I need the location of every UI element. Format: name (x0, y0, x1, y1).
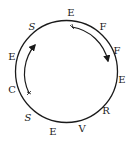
arrow-tail-left-icon (27, 91, 31, 95)
letter-3: F (114, 46, 121, 56)
letter-5: R (102, 106, 110, 116)
letter-4: E (118, 75, 125, 85)
letter-7: E (49, 127, 56, 137)
letter-circle-diagram: E F F E R V E S C E S (0, 0, 134, 148)
letter-11: S (29, 22, 36, 32)
letter-6: V (78, 124, 85, 134)
letter-10: E (8, 52, 15, 62)
letter-8: S (25, 113, 32, 123)
clockwise-arrow-left-icon (24, 45, 35, 93)
arrow-tail-right-icon (70, 24, 74, 29)
letter-1: E (67, 8, 74, 18)
circle-graphic (0, 0, 134, 148)
letter-2: F (100, 22, 107, 32)
letter-9: C (8, 85, 16, 95)
clockwise-arrow-right-icon (72, 27, 108, 61)
